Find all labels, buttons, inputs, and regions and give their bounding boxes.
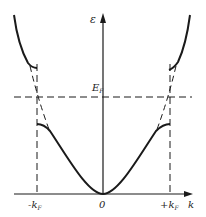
fermi-level-sub: F bbox=[99, 87, 103, 94]
tick-minus-kf: -kF bbox=[28, 200, 42, 211]
x-axis-arrow-icon bbox=[184, 191, 193, 197]
upper-band-right bbox=[169, 15, 190, 70]
free-electron-parabola-right bbox=[156, 66, 176, 132]
x-axis-label: k bbox=[188, 200, 194, 210]
free-electron-parabola-left bbox=[30, 66, 50, 132]
tick-plus-kf-main: +k bbox=[160, 199, 174, 210]
tick-plus-kf-sub: F bbox=[174, 204, 178, 211]
tick-minus-kf-sub: F bbox=[37, 204, 41, 211]
tick-origin: 0 bbox=[99, 200, 105, 210]
fermi-level-label: EF bbox=[92, 83, 103, 94]
y-axis-arrow-icon bbox=[100, 13, 106, 23]
tick-plus-kf: +kF bbox=[160, 200, 179, 211]
upper-band-left bbox=[14, 15, 37, 68]
y-axis-label: ε bbox=[90, 14, 96, 25]
band-diagram bbox=[0, 0, 206, 217]
